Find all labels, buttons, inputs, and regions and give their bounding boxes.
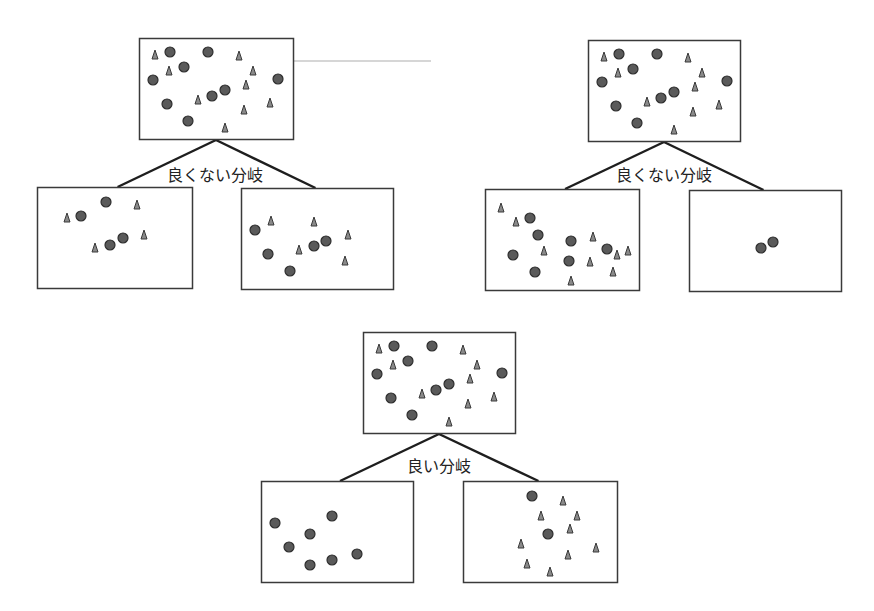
circle-data-point-icon: [632, 118, 642, 128]
circle-data-point-icon: [284, 542, 294, 552]
left-child-node-box: [38, 188, 193, 289]
circle-data-point-icon: [165, 47, 175, 57]
circle-data-point-icon: [273, 74, 283, 84]
circle-data-point-icon: [76, 211, 86, 221]
circle-data-point-icon: [101, 197, 111, 207]
circle-data-point-icon: [768, 237, 778, 247]
circle-data-point-icon: [628, 64, 638, 74]
bad-split-1-label: 良くない分岐: [167, 162, 263, 186]
circle-data-point-icon: [207, 91, 217, 101]
parent-node-box: [364, 333, 516, 434]
circle-data-point-icon: [386, 393, 396, 403]
circle-data-point-icon: [183, 116, 193, 126]
circle-data-point-icon: [321, 236, 331, 246]
circle-data-point-icon: [309, 241, 319, 251]
circle-data-point-icon: [656, 93, 666, 103]
circle-data-point-icon: [508, 250, 518, 260]
circle-data-point-icon: [270, 518, 280, 528]
circle-data-point-icon: [533, 230, 543, 240]
circle-data-point-icon: [652, 49, 662, 59]
circle-data-point-icon: [203, 47, 213, 57]
circle-data-point-icon: [497, 368, 507, 378]
good-split-label: 良い分岐: [407, 453, 471, 477]
circle-data-point-icon: [389, 341, 399, 351]
circle-data-point-icon: [444, 379, 454, 389]
circle-data-point-icon: [527, 491, 537, 501]
circle-data-point-icon: [614, 49, 624, 59]
parent-node-box: [140, 39, 294, 140]
circle-data-point-icon: [611, 101, 621, 111]
right-child-node-box: [690, 191, 842, 292]
circle-data-point-icon: [118, 233, 128, 243]
circle-data-point-icon: [162, 99, 172, 109]
circle-data-point-icon: [722, 76, 732, 86]
circle-data-point-icon: [220, 85, 230, 95]
circle-data-point-icon: [431, 385, 441, 395]
circle-data-point-icon: [352, 549, 362, 559]
left-child-node-box: [486, 190, 640, 291]
decision-tree-split-diagram: [0, 0, 874, 611]
bad-split-2-label: 良くない分岐: [616, 162, 712, 186]
left-child-node-box: [262, 482, 414, 583]
circle-data-point-icon: [403, 356, 413, 366]
circle-data-point-icon: [327, 511, 337, 521]
circle-data-point-icon: [250, 225, 260, 235]
circle-data-point-icon: [407, 410, 417, 420]
circle-data-point-icon: [669, 87, 679, 97]
circle-data-point-icon: [327, 555, 337, 565]
circle-data-point-icon: [305, 560, 315, 570]
circle-data-point-icon: [372, 369, 382, 379]
circle-data-point-icon: [602, 244, 612, 254]
circle-data-point-icon: [530, 267, 540, 277]
circle-data-point-icon: [305, 529, 315, 539]
circle-data-point-icon: [105, 240, 115, 250]
circle-data-point-icon: [285, 266, 295, 276]
circle-data-point-icon: [179, 62, 189, 72]
circle-data-point-icon: [564, 256, 574, 266]
circle-data-point-icon: [543, 529, 553, 539]
circle-data-point-icon: [597, 77, 607, 87]
circle-data-point-icon: [263, 249, 273, 259]
right-child-node-box: [464, 482, 618, 583]
circle-data-point-icon: [756, 243, 766, 253]
circle-data-point-icon: [566, 236, 576, 246]
circle-data-point-icon: [427, 341, 437, 351]
right-child-node-box: [242, 189, 394, 290]
parent-node-box: [589, 41, 741, 142]
circle-data-point-icon: [525, 213, 535, 223]
circle-data-point-icon: [148, 75, 158, 85]
